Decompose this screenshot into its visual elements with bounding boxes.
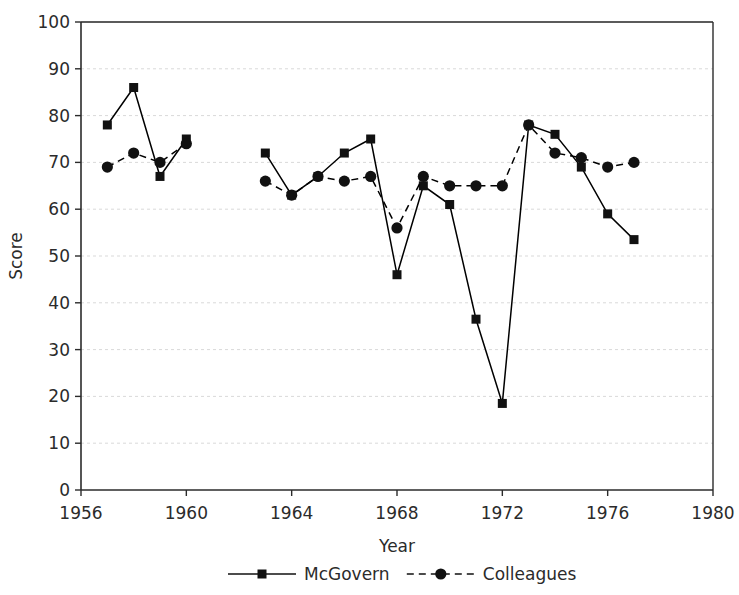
data-point	[603, 209, 612, 218]
x-tick-label: 1976	[586, 503, 629, 523]
legend-marker	[435, 568, 446, 579]
y-axis: 0102030405060708090100	[38, 12, 81, 500]
data-point	[549, 147, 560, 158]
legend-marker	[258, 570, 267, 579]
data-point	[418, 171, 429, 182]
data-point	[630, 235, 639, 244]
legend-label: McGovern	[304, 564, 390, 584]
data-point	[286, 190, 297, 201]
y-tick-label: 50	[48, 246, 70, 266]
data-point	[156, 172, 165, 181]
legend-label: Colleagues	[483, 564, 577, 584]
y-tick-label: 100	[38, 12, 70, 32]
y-tick-label: 80	[48, 106, 70, 126]
x-tick-label: 1968	[375, 503, 418, 523]
y-tick-label: 30	[48, 340, 70, 360]
data-point	[365, 171, 376, 182]
data-point	[340, 149, 349, 158]
y-tick-label: 70	[48, 152, 70, 172]
series-line	[107, 88, 186, 177]
y-tick-label: 10	[48, 433, 70, 453]
data-point	[498, 399, 507, 408]
data-point	[391, 222, 402, 233]
data-point	[339, 176, 350, 187]
data-point	[366, 135, 375, 144]
x-tick-label: 1956	[59, 503, 102, 523]
y-tick-label: 90	[48, 59, 70, 79]
plot-frame	[81, 22, 713, 490]
data-point	[181, 138, 192, 149]
data-point	[444, 180, 455, 191]
x-tick-label: 1960	[165, 503, 208, 523]
y-tick-label: 20	[48, 386, 70, 406]
data-point	[628, 157, 639, 168]
data-point	[261, 149, 270, 158]
y-axis-title: Score	[6, 232, 26, 280]
data-point	[393, 270, 402, 279]
data-point	[602, 161, 613, 172]
data-point	[576, 152, 587, 163]
y-tick-label: 40	[48, 293, 70, 313]
y-tick-label: 0	[59, 480, 70, 500]
legend: McGovernColleagues	[228, 564, 576, 584]
chart-container: 0102030405060708090100Score1956196019641…	[0, 0, 739, 595]
data-point	[419, 181, 428, 190]
x-tick-label: 1964	[270, 503, 313, 523]
data-point	[472, 315, 481, 324]
data-point	[470, 180, 481, 191]
data-point	[497, 180, 508, 191]
x-tick-label: 1972	[481, 503, 524, 523]
data-point	[445, 200, 454, 209]
data-point	[551, 130, 560, 139]
x-axis-title: Year	[378, 536, 415, 556]
data-point	[312, 171, 323, 182]
x-axis: 1956196019641968197219761980	[59, 490, 734, 523]
data-point	[103, 120, 112, 129]
data-point	[154, 157, 165, 168]
x-tick-label: 1980	[691, 503, 734, 523]
data-point	[260, 176, 271, 187]
data-point	[577, 163, 586, 172]
data-point	[523, 119, 534, 130]
data-point	[129, 83, 138, 92]
series-mcgovern	[103, 83, 639, 408]
data-point	[102, 161, 113, 172]
line-chart: 0102030405060708090100Score1956196019641…	[0, 0, 739, 595]
y-tick-label: 60	[48, 199, 70, 219]
data-point	[128, 147, 139, 158]
